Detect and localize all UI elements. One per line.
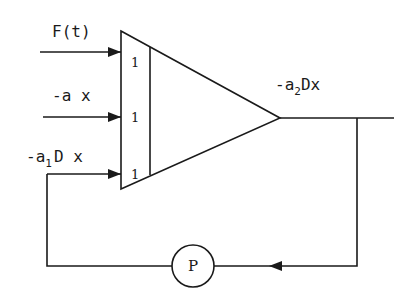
potentiometer-label: P (188, 257, 198, 275)
input-label-a1dx: -a1D x (26, 147, 83, 170)
input-gain: 1 (131, 110, 139, 125)
input-a1dx: -a1D x 1 (26, 147, 139, 182)
input-ax: -a x 1 (43, 86, 139, 125)
potentiometer: P (172, 245, 214, 287)
output-label: -a2Dx (275, 75, 321, 98)
arrow-right-icon (108, 112, 121, 122)
arrow-right-icon (108, 169, 121, 179)
input-gain: 1 (131, 167, 139, 182)
summing-amplifier (121, 31, 280, 189)
input-gain: 1 (131, 55, 139, 70)
input-ft: F(t) 1 (40, 22, 139, 70)
input-label-ft: F(t) (52, 22, 91, 41)
output-line: -a2Dx (275, 75, 394, 118)
arrow-left-icon (269, 261, 282, 271)
diagram-canvas: F(t) 1 -a x 1 -a1D x 1 -a2Dx P (0, 0, 414, 302)
input-label-ax: -a x (52, 86, 91, 105)
arrow-right-icon (108, 47, 121, 57)
feedback-path (47, 118, 357, 271)
